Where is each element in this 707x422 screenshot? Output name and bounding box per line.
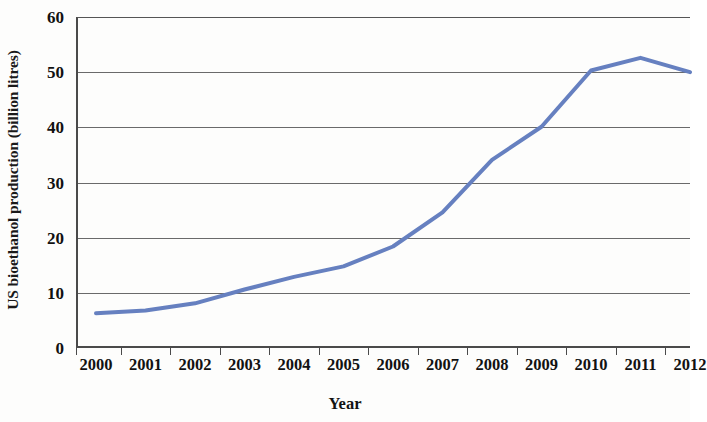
x-axis-tick-label: 2003 [228,355,261,375]
x-axis-tick-mark [170,348,171,355]
x-axis-tick-labels: 2000200120022003200420052006200720082009… [76,355,690,379]
y-axis-tick-label: 10 [47,284,64,301]
x-axis-tick-label: 2011 [624,355,656,375]
x-axis-tick-label: 2005 [327,355,360,375]
plot-frame [76,17,690,348]
y-axis-tick-label: 0 [56,340,65,357]
x-axis-tick-mark [566,348,567,355]
y-axis-tick-label: 60 [47,9,64,26]
x-axis-tick-mark [220,348,221,355]
y-axis-tick-label: 40 [47,119,64,136]
x-axis-tick-label: 2007 [426,355,459,375]
x-axis-tick-label: 2002 [179,355,212,375]
y-axis-tick-labels: 0102030405060 [28,0,70,422]
x-axis-tick-mark [121,348,122,355]
y-axis-tick-label: 30 [47,174,64,191]
x-axis-tick-label: 2001 [129,355,162,375]
x-axis-tick-mark [76,348,77,355]
x-axis-tick-mark [269,348,270,355]
plot-area [76,17,690,348]
x-axis-tick-label: 2000 [80,355,113,375]
x-axis-tick-label: 2008 [476,355,509,375]
x-axis-tick-mark [467,348,468,355]
x-axis-title: Year [0,394,690,414]
y-axis-title: US bioethanol production (billion litres… [0,0,26,360]
x-axis-tick-mark [517,348,518,355]
x-axis-tick-mark [368,348,369,355]
x-axis-tick-label: 2009 [525,355,558,375]
x-axis-tick-label: 2010 [575,355,608,375]
x-axis-tick-label: 2012 [674,355,707,375]
y-axis-tick-label: 20 [47,229,64,246]
x-axis-tick-mark [665,348,666,355]
y-axis-tick-label: 50 [47,64,64,81]
y-axis-title-text: US bioethanol production (billion litres… [4,50,22,310]
x-axis-tick-mark [418,348,419,355]
x-axis-tick-label: 2004 [278,355,311,375]
x-axis-tick-label: 2006 [377,355,410,375]
x-axis-tick-mark [319,348,320,355]
x-axis-tick-mark [616,348,617,355]
